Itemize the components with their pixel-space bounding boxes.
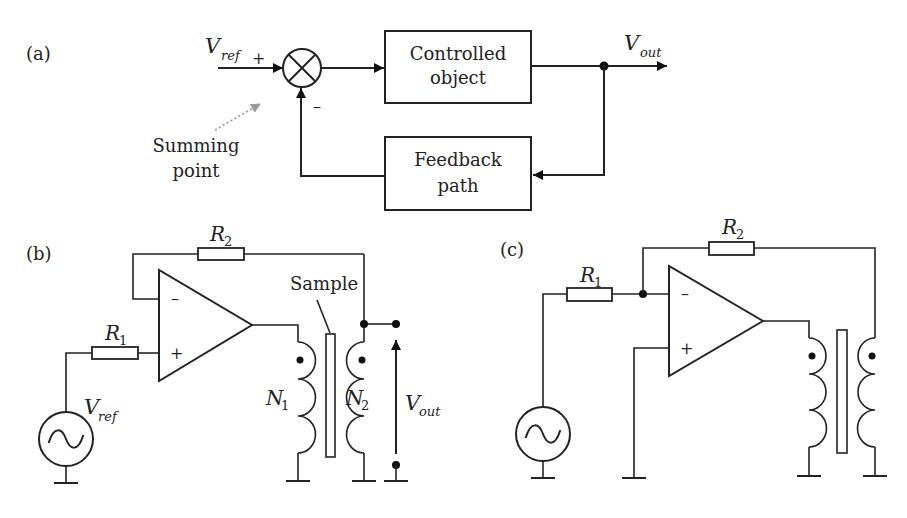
ac-source-icon: [39, 412, 93, 466]
n1-subscript: 1: [281, 398, 289, 413]
primary-dot: [297, 357, 304, 364]
vref-subscript: ref: [221, 48, 242, 63]
r2-resistor: [198, 248, 244, 260]
sample-core: [326, 334, 335, 457]
opamp-minus: –: [171, 289, 179, 308]
r2-symbol: R: [209, 222, 225, 246]
minus-sign: –: [313, 97, 321, 116]
r2-subscript: 2: [736, 227, 744, 242]
opamp-minus: –: [681, 284, 689, 303]
summing-point-line1: Summing: [153, 135, 240, 156]
sample-pointer: [317, 300, 330, 333]
r1-subscript: 1: [119, 333, 127, 348]
vref-source-subscript: ref: [98, 409, 119, 424]
pointer-arrow: [215, 104, 260, 130]
vref-symbol: V: [205, 34, 222, 58]
summing-junction-icon: [283, 49, 321, 87]
opamp-triangle: [159, 270, 252, 381]
output-terminal: [392, 320, 400, 328]
r1-resistor: [92, 347, 138, 359]
opamp-plus: +: [680, 339, 693, 358]
summing-point-line2: point: [173, 160, 221, 181]
panel-b: (b) R 2 – + R 1 V ref N 1: [26, 222, 441, 483]
feedback-diagram: (a) V ref + – Controlled object V out Fe…: [0, 0, 907, 518]
feedback-path-block: [385, 137, 531, 210]
panel-a: (a) V ref + – Controlled object V out Fe…: [26, 31, 666, 210]
r1-resistor: [567, 288, 612, 301]
panel-c: (c) R 1 R 2 – +: [500, 215, 886, 478]
opamp-plus: +: [170, 344, 183, 363]
feedback-path-line1: Feedback: [414, 149, 503, 170]
r1-symbol: R: [579, 263, 595, 287]
ac-source-icon: [516, 407, 570, 461]
opamp-triangle: [669, 266, 763, 376]
r2-resistor: [709, 242, 754, 255]
vout-subscript: out: [640, 45, 662, 60]
sample-core: [837, 330, 847, 453]
controlled-object-line2: object: [430, 67, 487, 88]
secondary-dot: [359, 357, 366, 364]
panel-a-label: (a): [26, 43, 51, 64]
controlled-object-line1: Controlled: [410, 43, 507, 64]
secondary-dot: [869, 353, 876, 360]
feedback-return-arrow: [534, 66, 604, 175]
vout-b-subscript: out: [419, 404, 441, 419]
opamp-output-wire: [252, 325, 298, 342]
vout-symbol: V: [624, 31, 641, 55]
r1-symbol: R: [104, 321, 120, 345]
panel-c-label: (c): [500, 239, 524, 260]
plus-sign: +: [252, 49, 265, 68]
r1-subscript: 1: [594, 275, 602, 290]
panel-b-label: (b): [26, 243, 52, 264]
primary-dot: [809, 353, 816, 360]
n2-subscript: 2: [361, 398, 369, 413]
feedback-path-line2: path: [437, 175, 478, 196]
r2-subscript: 2: [224, 234, 232, 249]
sample-label: Sample: [290, 273, 358, 294]
r2-symbol: R: [721, 215, 737, 239]
junction-dot: [360, 320, 368, 328]
